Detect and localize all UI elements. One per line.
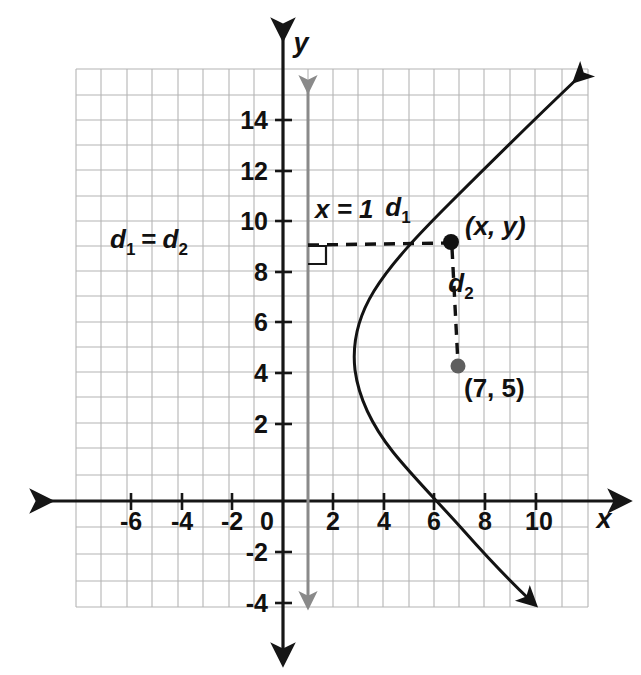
x-tick-label--4: -4 (171, 507, 193, 535)
equality-right-letter: d (163, 224, 180, 254)
d1-label-letter: d (385, 192, 402, 222)
y-tick-label--4: -4 (246, 589, 268, 617)
x-tick-label-10: 10 (525, 507, 553, 535)
graph-canvas: -6 -4 -2 2 4 6 8 10 0 14 12 10 8 6 4 2 -… (0, 0, 641, 675)
x-axis-label: x (594, 504, 612, 534)
equality-left-letter: d (110, 224, 127, 254)
equality-annotation: d1=d2 (110, 224, 188, 259)
directrix-label-text: x = 1 (313, 194, 374, 224)
d2-label-subscript: 2 (464, 284, 473, 303)
point-on-parabola-label: (x, y) (465, 211, 526, 241)
y-axis-label: y (291, 28, 310, 58)
equality-right-subscript: 2 (178, 240, 187, 259)
y-tick-label-8: 8 (254, 258, 268, 286)
x-tick-label--2: -2 (221, 507, 243, 535)
directrix-label: x = 1 (313, 194, 374, 224)
x-tick-label-6: 6 (427, 507, 441, 535)
x-tick-labels: -6 -4 -2 2 4 6 8 10 (120, 507, 553, 535)
y-tick-label-4: 4 (254, 359, 268, 387)
point-on-parabola-marker (443, 234, 459, 250)
y-tick-label-10: 10 (240, 207, 268, 235)
x-tick-label-2: 2 (326, 507, 340, 535)
d1-label-subscript: 1 (401, 208, 410, 227)
focus-label: (7, 5) (464, 373, 525, 403)
y-tick-label--2: -2 (246, 538, 268, 566)
y-tick-label-2: 2 (254, 410, 268, 438)
background (0, 0, 641, 675)
x-tick-label--6: -6 (120, 507, 142, 535)
y-tick-label-12: 12 (240, 157, 268, 185)
y-tick-label-6: 6 (254, 308, 268, 336)
equality-sign: = (141, 224, 156, 254)
d2-label-letter: d (448, 268, 465, 298)
x-tick-label-4: 4 (377, 507, 391, 535)
origin-label: 0 (260, 507, 274, 535)
equality-left-subscript: 1 (126, 240, 135, 259)
parabola-figure: -6 -4 -2 2 4 6 8 10 0 14 12 10 8 6 4 2 -… (0, 0, 641, 675)
y-tick-label-14: 14 (240, 106, 268, 134)
focus-marker (451, 359, 466, 374)
x-tick-label-8: 8 (478, 507, 492, 535)
